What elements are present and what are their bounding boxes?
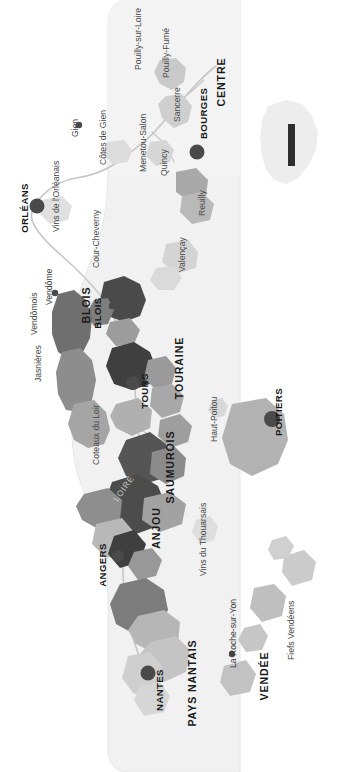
- map-svg: PAYS NANTAIS ANJOU SAUMUROIS TOURAINE BL…: [0, 0, 340, 772]
- appellation-label-reuilly: Reuilly: [197, 190, 207, 216]
- city-label-vendome: Vendôme: [44, 268, 54, 305]
- city-label-la-roche-sur-yon: La Roche-sur-Yon: [228, 599, 238, 668]
- city-label-bourges: BOURGES: [198, 87, 209, 139]
- city-dot-orleans: [30, 199, 45, 214]
- city-dot-bourges: [190, 145, 205, 160]
- appellation-label-vins-orleanais: Vins de l'Orléanais: [51, 161, 61, 232]
- appellation-label-quincy: Quincy: [159, 149, 169, 176]
- city-dot-tours: [126, 376, 140, 390]
- city-label-blois: BLOIS: [92, 297, 103, 329]
- area-label-vendee: VENDÉE: [258, 652, 270, 701]
- area-label-anjou: ANJOU: [150, 507, 162, 549]
- appellation-label-vins-du-thouarsais: Vins du Thouarsais: [198, 503, 208, 576]
- inset-loire-highlight: [288, 124, 295, 166]
- city-label-gien: Gien: [70, 119, 80, 137]
- appellation-label-valencay: Valençay: [177, 237, 187, 272]
- appellation-label-menetou-salon: Menetou-Salon: [138, 113, 148, 172]
- appellation-label-coteaux-du-loir: Coteaux du Loir: [91, 404, 101, 465]
- area-label-pays-nantais: PAYS NANTAIS: [186, 639, 198, 726]
- appellation-label-cour-cheverny: Cour-Cheverny: [91, 209, 101, 268]
- area-label-blois: BLOIS: [80, 287, 92, 324]
- appellation-label-cotes-de-gien: Côtes de Gien: [98, 110, 108, 165]
- city-label-nantes: NANTES: [154, 669, 165, 711]
- city-dot-blois: [109, 303, 115, 309]
- area-label-saumurois: SAUMUROIS: [164, 431, 176, 504]
- appellation-label-jasnieres: Jasnières: [33, 345, 43, 382]
- city-label-orleans: ORLÉANS: [19, 183, 30, 233]
- area-label-centre: CENTRE: [215, 58, 227, 107]
- appellation-label-sancerre: Sancerre: [172, 87, 182, 122]
- appellation-label-vendomois: Vendômois: [29, 292, 39, 335]
- appellation-label-fiefs-vendeens: Fiefs Vendéens: [286, 601, 296, 660]
- wine-region-map: PAYS NANTAIS ANJOU SAUMUROIS TOURAINE BL…: [0, 0, 340, 772]
- city-dot-angers: [112, 550, 124, 562]
- appellation-label-pouilly-fume: Pouilly-Fumé: [161, 28, 171, 78]
- area-label-touraine: TOURAINE: [173, 337, 185, 399]
- city-label-angers: ANGERS: [97, 543, 108, 587]
- city-label-poitiers: POITIERS: [273, 388, 284, 436]
- appellation-label-pouilly-sur-loire: Pouilly-sur-Loire: [133, 8, 143, 70]
- city-label-tours: TOURS: [139, 373, 150, 409]
- appellation-label-haut-poitou: Haut-Poitou: [209, 396, 219, 442]
